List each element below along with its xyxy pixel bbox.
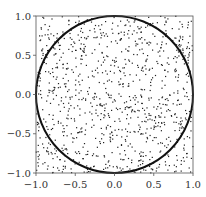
data-point — [186, 92, 187, 93]
data-point — [103, 83, 104, 84]
data-point — [189, 48, 190, 49]
data-point — [186, 48, 187, 49]
data-point — [131, 160, 132, 161]
data-point — [68, 103, 69, 104]
data-point — [114, 72, 115, 73]
data-point — [84, 172, 85, 173]
data-point — [147, 43, 148, 44]
data-point — [43, 147, 44, 148]
data-point — [103, 134, 104, 135]
data-point — [106, 128, 107, 129]
data-point — [78, 81, 79, 82]
data-point — [99, 44, 100, 45]
data-point — [166, 22, 167, 23]
data-point — [132, 110, 133, 111]
data-point — [94, 31, 95, 32]
data-point — [128, 85, 129, 86]
data-point — [141, 70, 142, 71]
data-point — [145, 170, 146, 171]
data-point — [82, 32, 83, 33]
data-point — [100, 33, 101, 34]
data-point — [104, 108, 105, 109]
data-point — [183, 89, 184, 90]
data-point — [149, 115, 150, 116]
data-point — [187, 27, 188, 28]
data-point — [56, 63, 57, 64]
data-point — [96, 105, 97, 106]
data-point — [45, 121, 46, 122]
data-point — [150, 42, 151, 43]
data-point — [40, 39, 41, 40]
data-point — [190, 171, 191, 172]
data-point — [64, 131, 65, 132]
data-point — [105, 168, 106, 169]
data-point — [145, 121, 146, 122]
data-point — [61, 57, 62, 58]
data-point — [52, 91, 53, 92]
data-point — [92, 75, 93, 76]
data-point — [128, 51, 129, 52]
data-point — [92, 97, 93, 98]
data-point — [183, 127, 184, 128]
data-point — [128, 145, 129, 146]
data-point — [79, 84, 80, 85]
data-point — [84, 143, 85, 144]
data-point — [119, 70, 120, 71]
data-point — [175, 76, 176, 77]
data-point — [112, 23, 113, 24]
data-point — [152, 50, 153, 51]
data-point — [54, 148, 55, 149]
data-point — [129, 61, 130, 62]
data-point — [77, 105, 78, 106]
data-point — [164, 17, 165, 18]
data-point — [41, 27, 42, 28]
data-point — [78, 151, 79, 152]
data-point — [137, 110, 138, 111]
data-point — [181, 171, 182, 172]
y-tick-label: −1.0 — [7, 168, 31, 179]
data-point — [92, 106, 93, 107]
data-point — [162, 96, 163, 97]
data-point — [187, 136, 188, 137]
data-point — [186, 153, 187, 154]
data-point — [124, 102, 125, 103]
data-point — [178, 123, 179, 124]
data-point — [151, 97, 152, 98]
data-point — [70, 37, 71, 38]
data-point — [152, 157, 153, 158]
data-point — [168, 137, 169, 138]
data-point — [177, 90, 178, 91]
data-point — [46, 126, 47, 127]
data-point — [136, 97, 137, 98]
data-point — [72, 96, 73, 97]
data-point — [175, 69, 176, 70]
data-point — [64, 38, 65, 39]
data-point — [114, 99, 115, 100]
data-point — [111, 29, 112, 30]
data-point — [190, 130, 191, 131]
data-point — [168, 144, 169, 145]
data-point — [138, 125, 139, 126]
data-point — [122, 159, 123, 160]
data-point — [85, 100, 86, 101]
data-point — [117, 43, 118, 44]
data-point — [79, 21, 80, 22]
data-point — [152, 23, 153, 24]
data-point — [176, 104, 177, 105]
data-point — [188, 42, 189, 43]
data-point — [94, 99, 95, 100]
data-point — [132, 63, 133, 64]
data-point — [56, 95, 57, 96]
data-point — [111, 95, 112, 96]
data-point — [59, 159, 60, 160]
data-point — [38, 123, 39, 124]
data-point — [100, 103, 101, 104]
data-point — [85, 112, 86, 113]
data-point — [77, 132, 78, 133]
data-point — [189, 36, 190, 37]
data-point — [49, 26, 50, 27]
data-point — [150, 85, 151, 86]
x-tick-label: 0.5 — [146, 179, 162, 190]
data-point — [86, 154, 87, 155]
data-point — [142, 163, 143, 164]
